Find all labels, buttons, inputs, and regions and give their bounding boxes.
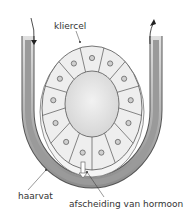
cell-leader-line	[76, 31, 80, 42]
arrow-in-icon	[31, 18, 37, 45]
lumen	[65, 71, 119, 137]
capillary-leader-line	[28, 170, 46, 190]
label-haarvat: haarvat	[18, 191, 53, 201]
gland-diagram	[0, 0, 184, 216]
label-secretion: afscheiding van hormoon	[69, 199, 183, 209]
label-kliercel: kliercel	[54, 21, 86, 31]
